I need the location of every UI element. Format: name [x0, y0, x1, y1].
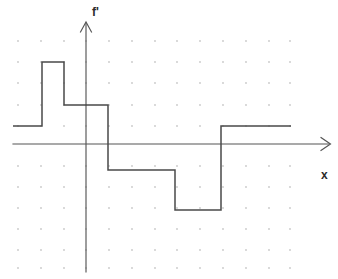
grid-dot: [131, 249, 133, 251]
grid-dot: [17, 228, 19, 230]
grid-dot: [63, 40, 65, 42]
grid-dot: [289, 61, 291, 63]
grid-dot: [199, 165, 201, 167]
grid-dot: [40, 228, 42, 230]
grid-dot: [176, 207, 178, 209]
grid-dot: [199, 125, 201, 127]
grid-dot: [199, 40, 201, 42]
grid-dot: [17, 186, 19, 188]
grid-dot: [131, 61, 133, 63]
grid-dot: [154, 228, 156, 230]
grid-dot: [17, 82, 19, 84]
grid-dot: [268, 249, 270, 251]
grid-dot: [131, 40, 133, 42]
grid-dot: [40, 267, 42, 269]
grid-dot: [154, 104, 156, 106]
grid-dot: [131, 228, 133, 230]
grid-dot: [199, 82, 201, 84]
step-function-plot: [0, 0, 338, 279]
grid-dot: [154, 186, 156, 188]
grid-dot: [108, 186, 110, 188]
grid-dot: [176, 228, 178, 230]
grid-dot: [222, 267, 224, 269]
grid-dot: [245, 61, 247, 63]
grid-dot: [154, 125, 156, 127]
grid-dot: [199, 228, 201, 230]
grid-dot: [245, 186, 247, 188]
grid-dot: [176, 40, 178, 42]
grid-dot: [222, 165, 224, 167]
grid-dot: [176, 125, 178, 127]
grid-dot: [176, 186, 178, 188]
grid-dot: [108, 61, 110, 63]
grid-dot: [17, 61, 19, 63]
grid-dot: [289, 104, 291, 106]
grid-dot: [222, 104, 224, 106]
grid-dot: [289, 228, 291, 230]
grid-dot: [17, 267, 19, 269]
grid-dot: [245, 249, 247, 251]
grid-dot: [245, 207, 247, 209]
grid-dot: [131, 82, 133, 84]
grid-dot: [245, 165, 247, 167]
grid-dot: [63, 249, 65, 251]
grid-dot: [40, 207, 42, 209]
figure-container: f' x: [0, 0, 338, 279]
grid-dot: [176, 104, 178, 106]
grid-dot: [268, 40, 270, 42]
grid-dot: [17, 40, 19, 42]
grid-dot: [268, 61, 270, 63]
grid-dot: [154, 207, 156, 209]
grid-dot: [154, 61, 156, 63]
grid-dot: [268, 165, 270, 167]
grid-dot: [131, 186, 133, 188]
grid-dot: [268, 104, 270, 106]
grid-dot: [131, 165, 133, 167]
grid-dot: [63, 267, 65, 269]
grid-dot: [154, 82, 156, 84]
grid-dot: [40, 165, 42, 167]
grid-dot: [268, 228, 270, 230]
grid-dot: [289, 40, 291, 42]
grid-dot: [289, 267, 291, 269]
grid-dot: [222, 40, 224, 42]
grid-dot: [131, 267, 133, 269]
grid-dot: [199, 186, 201, 188]
grid-dot: [268, 186, 270, 188]
grid-dot: [199, 104, 201, 106]
grid-dot: [108, 40, 110, 42]
grid-dot: [245, 82, 247, 84]
grid-dot: [40, 40, 42, 42]
grid-dot: [268, 267, 270, 269]
grid-dot: [245, 228, 247, 230]
grid-dot: [245, 104, 247, 106]
grid-dot: [222, 228, 224, 230]
grid-dot: [108, 207, 110, 209]
grid-dot: [63, 228, 65, 230]
grid-dot: [222, 249, 224, 251]
grid-dot: [108, 228, 110, 230]
grid-dot: [289, 207, 291, 209]
grid-dot: [268, 207, 270, 209]
grid-dot: [176, 61, 178, 63]
grid-dot: [154, 267, 156, 269]
grid-dot: [108, 249, 110, 251]
grid-dot: [108, 82, 110, 84]
grid-dot: [131, 104, 133, 106]
grid-dot: [17, 207, 19, 209]
grid-dot: [63, 186, 65, 188]
grid-dot: [222, 207, 224, 209]
grid-dot: [176, 165, 178, 167]
grid-dot: [108, 267, 110, 269]
grid-dot: [17, 104, 19, 106]
x-axis-label: x: [321, 169, 328, 181]
grid-dot: [222, 82, 224, 84]
grid-dot: [176, 267, 178, 269]
grid-dot: [245, 267, 247, 269]
grid-dot: [289, 82, 291, 84]
grid-dot: [40, 249, 42, 251]
grid-dot: [199, 267, 201, 269]
grid-dot: [17, 249, 19, 251]
grid-dot: [289, 165, 291, 167]
grid-dot: [199, 61, 201, 63]
